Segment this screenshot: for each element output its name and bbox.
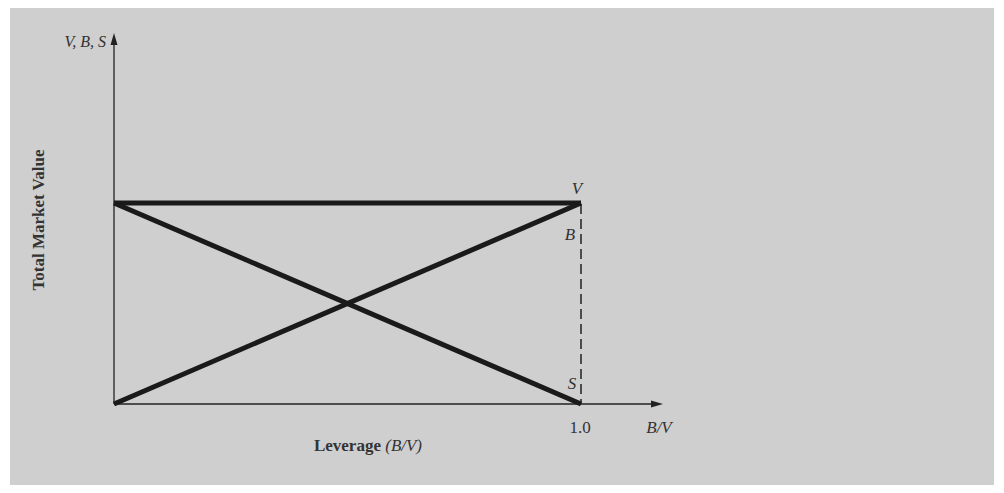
point-label-s: S (568, 374, 577, 393)
y-axis-arrow-icon (111, 33, 118, 45)
y-axis-title: Total Market Value (29, 149, 48, 291)
x-axis-end-label: B/V (646, 418, 674, 437)
point-label-v: V (572, 179, 585, 198)
x-axis-arrow-icon (651, 401, 663, 408)
chart-svg: V, B, S Total Market Value V B S 1.0 B/V… (0, 0, 1004, 493)
y-axis-top-label: V, B, S (65, 33, 106, 50)
x-axis-title-paren: (B/V) (385, 436, 422, 455)
x-axis-title: Leverage (B/V) (314, 436, 422, 455)
x-axis-title-main: Leverage (314, 436, 385, 455)
x-tick-1-0: 1.0 (569, 418, 590, 437)
point-label-b: B (565, 225, 576, 244)
